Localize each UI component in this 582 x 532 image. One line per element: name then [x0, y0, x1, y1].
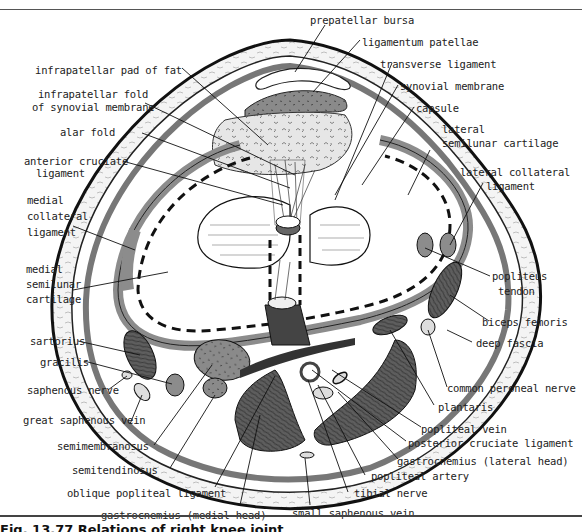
- label-oblique-popliteal-ligament: oblique popliteal ligament: [67, 487, 226, 499]
- label-small-saphenous-vein: small saphenous vein: [292, 507, 414, 519]
- label-ligamentum-patellae: ligamentum patellae: [362, 36, 478, 48]
- label-medial-collateral-ligament-line2: collateral: [27, 210, 88, 222]
- bottom-rule: [0, 515, 582, 517]
- popliteus-tendon-shape: [417, 233, 433, 257]
- gracilis-shape: [166, 374, 184, 396]
- tibial-nerve-shape: [313, 387, 333, 399]
- lateral-collateral-ligament-shape: [440, 233, 456, 257]
- label-semimembranosus: semimembranosus: [57, 440, 149, 452]
- label-transverse-ligament: transverse ligament: [380, 58, 496, 70]
- label-infrapatellar-fold-line1: infrapatellar fold: [38, 88, 148, 100]
- label-medial-collateral-ligament-line1: medial: [27, 194, 64, 206]
- label-saphenous-nerve: saphenous nerve: [27, 384, 119, 396]
- label-popliteus-tendon-line2: tendon: [498, 285, 535, 297]
- label-medial-collateral-ligament-line3: ligament: [27, 226, 76, 238]
- common-peroneal-nerve-shape: [421, 319, 435, 335]
- label-lateral-semilunar-cartilage-line2: semilunar cartilage: [442, 137, 558, 149]
- label-infrapatellar-fold-line2: of synovial membrane: [32, 101, 154, 113]
- label-tibial-nerve: tibial nerve: [354, 487, 427, 499]
- label-capsule: capsule: [416, 102, 459, 114]
- label-lateral-collateral-ligament-line2: ligament: [486, 180, 535, 192]
- label-anterior-cruciate-ligament-line2: ligament: [36, 167, 85, 179]
- label-common-peroneal-nerve: common peroneal nerve: [447, 382, 576, 394]
- label-synovial-membrane: synovial membrane: [400, 80, 504, 92]
- label-medial-semilunar-cartilage-line3: cartilage: [26, 293, 81, 305]
- label-medial-semilunar-cartilage-line1: medial: [26, 263, 63, 275]
- label-popliteal-vein: popliteal vein: [421, 423, 507, 435]
- small-saphenous-vein-shape: [300, 452, 314, 458]
- label-anterior-cruciate-ligament-line1: anterior cruciate: [24, 155, 128, 167]
- label-lateral-collateral-ligament-line1: lateral collateral: [460, 166, 570, 178]
- figure-caption: Fig. 13.77 Relations of right knee joint: [0, 522, 284, 532]
- label-semitendinosus: semitendinosus: [72, 464, 158, 476]
- label-alar-fold: alar fold: [60, 126, 115, 138]
- label-posterior-cruciate-ligament: posterior cruciate ligament: [408, 437, 573, 449]
- label-lateral-semilunar-cartilage-line1: lateral: [442, 123, 485, 135]
- popliteal-artery-shape: [301, 363, 319, 381]
- label-gastrocnemius-lateral-head: gastrocnemius (lateral head): [397, 455, 568, 467]
- label-gracilis: gracilis: [40, 356, 89, 368]
- label-popliteal-artery: popliteal artery: [371, 470, 469, 482]
- label-plantaris: plantaris: [438, 401, 493, 413]
- label-prepatellar-bursa: prepatellar bursa: [310, 14, 414, 26]
- label-popliteus-tendon-line1: popliteus: [492, 270, 547, 282]
- label-infrapatellar-pad-of-fat: infrapatellar pad of fat: [0, 64, 182, 76]
- label-deep-fascia: deep fascia: [476, 337, 543, 349]
- label-great-saphenous-vein: great saphenous vein: [23, 414, 145, 426]
- label-biceps-femoris: biceps femoris: [482, 316, 568, 328]
- label-sartorius: sartorius: [30, 335, 85, 347]
- label-medial-semilunar-cartilage-line2: semilunar: [26, 278, 81, 290]
